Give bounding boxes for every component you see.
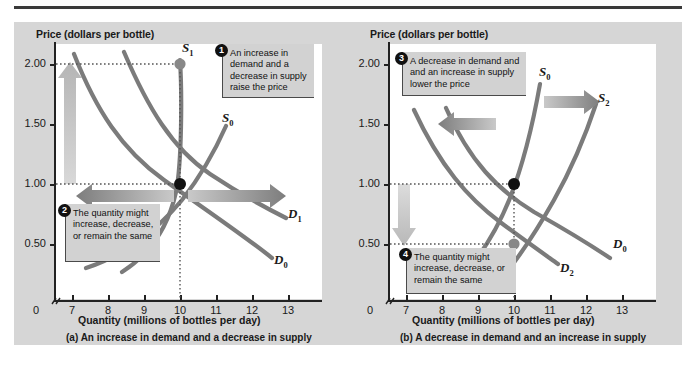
- panel-a-callout-2: The quantity might increase, decrease, o…: [65, 204, 160, 262]
- panel-b-initial-equilibrium-dot: [508, 178, 520, 190]
- panel-b-x-axis-title: Quantity (millions of bottles per day): [412, 314, 595, 326]
- panel-b-caption: (b) A decrease in demand and an increase…: [400, 332, 646, 343]
- panel-b-callout-4-badge: 4: [399, 248, 412, 261]
- panel-a-label-D1: D1: [288, 206, 302, 224]
- panel-a-label-S1: S1: [182, 40, 193, 58]
- panel-a-label-D0: D0: [274, 252, 288, 270]
- panel-b-callout-3-badge: 3: [395, 52, 408, 65]
- panel-b: Price (dollars per bottle) 2.00 1.50 1.0…: [348, 22, 682, 345]
- panel-b-curve-D2: [414, 110, 558, 264]
- panel-b-callout-3: A decrease in demand and and an increase…: [402, 52, 526, 96]
- panel-a-initial-equilibrium-dot: [174, 178, 186, 190]
- panel-a-callout-1: An increase in demand and a decrease in …: [222, 44, 314, 98]
- panel-b-demand-shift-left-arrow: [438, 112, 496, 136]
- panel-a-label-S0: S0: [222, 110, 233, 128]
- panel-a-caption: (a) An increase in demand and a decrease…: [66, 332, 312, 343]
- panel-b-label-S0: S0: [539, 64, 550, 82]
- panel-b-supply-shift-right-arrow: [544, 90, 600, 114]
- panel-a: Price (dollars per bottle) 2.00 1.50 1.0…: [14, 22, 348, 345]
- top-rule-divider: [14, 6, 682, 9]
- panel-a-price-increase-arrow: [58, 62, 82, 184]
- panel-b-price-decrease-arrow: [392, 184, 416, 246]
- panel-a-callout-2-badge: 2: [58, 204, 71, 217]
- panel-b-label-S2: S2: [598, 90, 609, 108]
- panel-a-callout-1-badge: 1: [215, 44, 228, 57]
- figure-container: Price (dollars per bottle) 2.00 1.50 1.0…: [0, 0, 694, 387]
- panel-a-new-equilibrium-dot: [174, 58, 185, 69]
- panel-b-label-D0: D0: [613, 236, 627, 254]
- panel-b-callout-4: The quantity might increase, decrease, o…: [406, 248, 516, 294]
- panel-a-quantity-right-arrow: [188, 184, 286, 208]
- panel-b-label-D2: D2: [560, 260, 574, 278]
- panel-a-x-axis-title: Quantity (millions of bottles per day): [78, 314, 261, 326]
